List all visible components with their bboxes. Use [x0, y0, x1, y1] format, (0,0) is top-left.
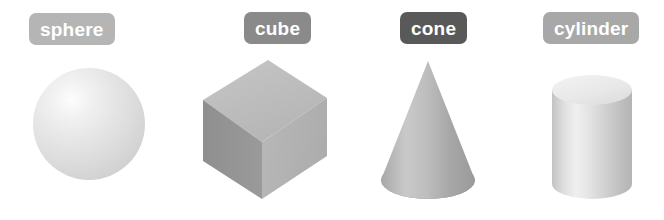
cone-body — [381, 61, 475, 199]
shape-label-sphere: sphere — [29, 13, 115, 45]
cone-shape — [378, 58, 478, 203]
cylinder-body — [552, 90, 632, 199]
cylinder-top-face — [552, 75, 632, 105]
cube-shape — [196, 58, 328, 200]
shape-label-cube: cube — [244, 12, 311, 44]
cylinder-shape — [549, 72, 635, 202]
sphere-shape — [33, 68, 145, 180]
shape-label-cone: cone — [400, 12, 467, 44]
shape-label-cylinder: cylinder — [543, 12, 639, 44]
shapes-canvas: sphere cube — [0, 0, 664, 220]
